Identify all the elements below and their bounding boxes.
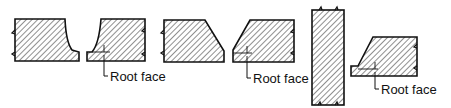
- bevel-right-plate: [233, 20, 294, 78]
- weld-joint-diagram: Root face Root face Root face: [0, 0, 451, 108]
- root-face-label-2: Root face: [253, 71, 309, 86]
- leader-line: [375, 76, 379, 89]
- vertical-plate: [312, 7, 344, 105]
- leader-line: [104, 61, 108, 76]
- bevel-left-plate: [161, 20, 224, 62]
- j-groove-right-plate: [87, 19, 145, 76]
- root-face-label-3: Root face: [381, 82, 437, 97]
- j-groove-left-plate: [12, 19, 79, 61]
- leader-line: [247, 62, 251, 78]
- root-face-label-1: Root face: [110, 69, 166, 84]
